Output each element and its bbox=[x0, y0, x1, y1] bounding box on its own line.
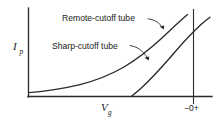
y-axis-label-symbol: I bbox=[12, 40, 18, 52]
sharp-cutoff-label: Sharp-cutoff tube bbox=[52, 41, 118, 51]
zero-tick-label: −0+ bbox=[184, 103, 199, 113]
remote-cutoff-label: Remote-cutoff tube bbox=[62, 13, 135, 23]
x-axis-label-subscript: g bbox=[108, 108, 112, 117]
remote-cutoff-leader-line bbox=[148, 19, 163, 27]
remote-cutoff-leader-arrow bbox=[160, 25, 165, 29]
y-axis-label-subscript: p bbox=[19, 47, 24, 56]
tube-characteristic-chart: Remote-cutoff tube Sharp-cutoff tube I p… bbox=[0, 0, 218, 121]
figure-container: Remote-cutoff tube Sharp-cutoff tube I p… bbox=[0, 0, 218, 121]
